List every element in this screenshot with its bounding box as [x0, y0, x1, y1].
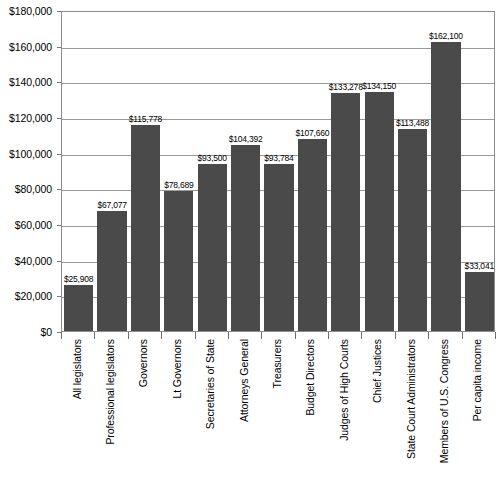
- bar-slot: $162,100: [431, 12, 460, 331]
- bar[interactable]: [131, 125, 160, 331]
- y-axis-tick-label: $60,000: [15, 219, 52, 231]
- bar[interactable]: [264, 164, 293, 331]
- x-axis-category-label: Treasurers: [272, 339, 283, 388]
- x-axis-category-label: All legislators: [72, 339, 83, 399]
- bar[interactable]: [398, 129, 427, 331]
- bar-value-label: $107,660: [295, 128, 329, 138]
- bar-value-label: $162,100: [429, 31, 463, 41]
- bars-layer: $25,908$67,077$115,778$78,689$93,500$104…: [62, 12, 494, 331]
- bar-value-label: $115,778: [129, 114, 162, 124]
- bar-value-label: $78,689: [164, 180, 193, 190]
- bar[interactable]: [298, 139, 327, 331]
- bar[interactable]: [198, 164, 227, 331]
- y-axis-tick-label: $20,000: [15, 290, 52, 302]
- bar-slot: $115,778: [131, 12, 160, 331]
- bar-slot: $104,392: [231, 12, 260, 331]
- x-axis-category-label: Professional legislators: [105, 339, 116, 445]
- bar[interactable]: [465, 272, 494, 331]
- bar-slot: $113,488: [398, 12, 427, 331]
- bar-slot: $25,908: [64, 12, 93, 331]
- x-axis-labels: All legislatorsProfessional legislatorsG…: [61, 332, 495, 481]
- y-axis-tick-label: $160,000: [9, 41, 52, 53]
- bar-slot: $134,150: [365, 12, 394, 331]
- bar-slot: $93,500: [198, 12, 227, 331]
- bar-value-label: $113,488: [396, 118, 429, 128]
- x-axis-category-label: Per capita income: [472, 339, 483, 421]
- x-axis-tick-mark: [495, 332, 496, 339]
- y-axis-tick-label: $40,000: [15, 255, 52, 267]
- y-axis-tick-label: $0: [41, 326, 52, 338]
- bar-slot: $107,660: [298, 12, 327, 331]
- x-axis-category-label: Members of U.S. Congress: [439, 339, 450, 463]
- bar-slot: $78,689: [164, 12, 193, 331]
- bar-value-label: $133,278: [329, 82, 363, 92]
- bar-slot: $133,278: [331, 12, 360, 331]
- plot-area: $25,908$67,077$115,778$78,689$93,500$104…: [61, 11, 495, 332]
- x-axis-category-label: Attorneys General: [239, 339, 250, 422]
- bar-value-label: $93,784: [264, 153, 293, 163]
- bar[interactable]: [164, 191, 193, 331]
- y-axis-tick-label: $80,000: [15, 183, 52, 195]
- bar-slot: $33,041: [465, 12, 494, 331]
- x-axis-category-label: Budget Directors: [305, 339, 316, 416]
- x-axis-category-label: State Court Administrators: [406, 339, 417, 459]
- x-axis-category-label: Governors: [138, 339, 149, 387]
- x-axis-category-label: Secretaries of State: [205, 339, 216, 429]
- y-axis-tick-label: $120,000: [9, 112, 52, 124]
- bar-value-label: $104,392: [229, 134, 263, 144]
- bar-value-label: $33,041: [465, 261, 494, 271]
- bar-value-label: $134,150: [362, 81, 396, 91]
- bar[interactable]: [331, 93, 360, 331]
- y-axis: $0$20,000$40,000$60,000$80,000$100,000$1…: [0, 0, 57, 481]
- x-axis-category-label: Lt Governors: [172, 339, 183, 399]
- x-axis-category-label: Chief Justices: [372, 339, 383, 403]
- bar[interactable]: [431, 42, 460, 331]
- bar-chart: $0$20,000$40,000$60,000$80,000$100,000$1…: [0, 0, 504, 481]
- bar[interactable]: [365, 92, 394, 331]
- y-axis-tick-label: $180,000: [9, 5, 52, 17]
- bar-value-label: $25,908: [64, 274, 93, 284]
- bar-value-label: $67,077: [97, 200, 126, 210]
- y-axis-tick-label: $100,000: [9, 148, 52, 160]
- x-axis-category-label: Judges of High Courts: [339, 339, 350, 441]
- y-axis-tick-label: $140,000: [9, 76, 52, 88]
- bar[interactable]: [97, 211, 126, 331]
- bar-slot: $67,077: [97, 12, 126, 331]
- bar[interactable]: [231, 145, 260, 331]
- bar[interactable]: [64, 285, 93, 331]
- bar-slot: $93,784: [264, 12, 293, 331]
- bar-value-label: $93,500: [198, 153, 227, 163]
